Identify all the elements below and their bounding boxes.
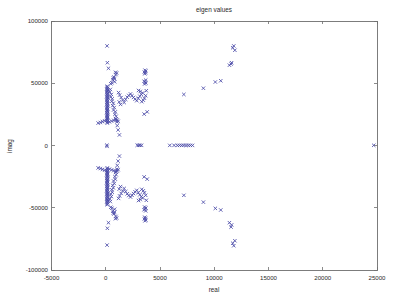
x-tick-label: 10000 (206, 274, 224, 281)
y-tick-label: -100000 (26, 266, 49, 273)
y-tick-label: 100000 (28, 17, 49, 24)
x-tick-label: 5000 (153, 274, 167, 281)
x-tick-label: 20000 (314, 274, 332, 281)
eigen-values-scatter-plot: -50000500010000150002000025000-100000-50… (0, 0, 397, 296)
y-axis-label: imag (6, 139, 14, 153)
plot-background (0, 0, 397, 296)
x-axis-label: real (209, 286, 220, 293)
y-tick-label: -50000 (29, 204, 49, 211)
figure-container: -50000500010000150002000025000-100000-50… (0, 0, 397, 296)
x-tick-label: 15000 (260, 274, 278, 281)
page-title: eigen values (196, 6, 232, 14)
y-tick-label: 50000 (31, 79, 49, 86)
x-tick-label: -5000 (44, 274, 60, 281)
x-tick-label: 25000 (369, 274, 387, 281)
